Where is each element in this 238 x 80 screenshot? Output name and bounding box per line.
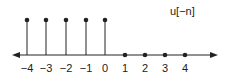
tick-label: −4 [21,62,34,74]
right-arrow-icon [210,52,218,58]
tick-label: 0 [102,62,108,74]
tick-labels: −4−3−2−101234 [21,62,188,74]
tick-label: −1 [80,62,93,74]
stem-point-n2 [143,53,148,58]
stems [25,18,188,58]
tick-label: 3 [162,62,168,74]
stem-point-n-3 [44,18,49,55]
tick-label: 2 [142,62,148,74]
stem-dot [84,18,89,23]
stem-point-n1 [123,53,128,58]
stem-point-n4 [183,53,188,58]
zero-dot [183,53,188,58]
stem-dot [103,18,108,23]
tick-label: 1 [122,62,128,74]
left-arrow-icon [12,52,20,58]
stem-dot [64,18,69,23]
signal-title: u[−n] [170,5,195,17]
tick-label: −3 [40,62,53,74]
stem-point-n0 [103,18,108,55]
tick-label: 4 [182,62,188,74]
stem-point-n-1 [84,18,89,55]
stem-dot [25,18,30,23]
stem-point-n-4 [25,18,30,55]
stem-plot: −4−3−2−101234 u[−n] [0,0,238,80]
stem-point-n-2 [64,18,69,55]
zero-dot [123,53,128,58]
stem-point-n3 [163,53,168,58]
stem-dot [44,18,49,23]
tick-label: −2 [60,62,73,74]
zero-dot [143,53,148,58]
zero-dot [163,53,168,58]
